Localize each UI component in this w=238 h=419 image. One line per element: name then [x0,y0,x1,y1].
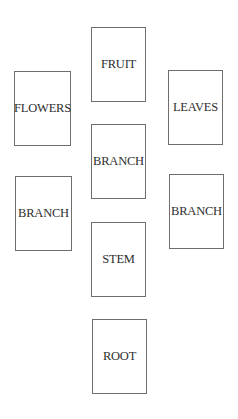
card-label-branch-right: BRANCH [171,204,222,219]
card-label-root: ROOT [103,349,136,364]
card-label-stem: STEM [102,252,135,267]
card-leaves: LEAVES [168,70,223,145]
card-branch-right: BRANCH [169,174,224,249]
card-label-fruit: FRUIT [101,57,136,72]
card-branch-left: BRANCH [15,176,72,251]
card-stem: STEM [91,222,146,297]
card-label-branch-left: BRANCH [18,206,69,221]
card-branch-center: BRANCH [91,124,146,199]
card-root: ROOT [92,319,147,394]
card-fruit: FRUIT [91,27,146,102]
card-label-flowers: FLOWERS [14,101,71,116]
card-label-branch-center: BRANCH [93,154,144,169]
card-label-leaves: LEAVES [173,100,218,115]
card-flowers: FLOWERS [14,71,71,146]
